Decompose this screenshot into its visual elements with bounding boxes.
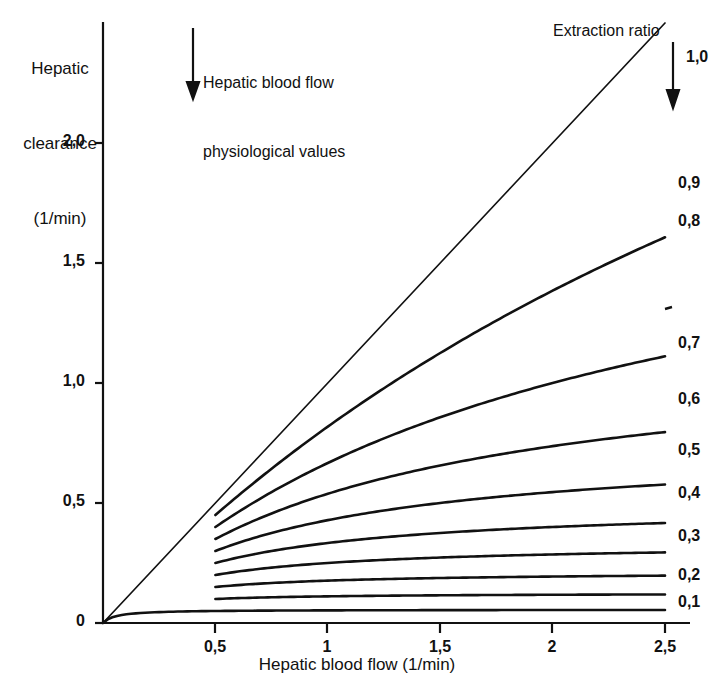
hepatic-blood-flow-annotation-line-1: Hepatic blood flow xyxy=(203,71,345,94)
x-tick-label-2: 2 xyxy=(527,638,577,656)
hepatic-flow-arrow-head xyxy=(187,82,199,99)
hepatic-blood-flow-annotation-line-2: physiological values xyxy=(203,140,345,163)
curve-0-6 xyxy=(215,485,665,551)
hepatic-blood-flow-annotation: Hepatic blood flow physiological values xyxy=(203,25,345,209)
extraction-ratio-curves xyxy=(103,23,665,623)
y-tick-label-2-0: 2,0 xyxy=(33,132,85,150)
curve-0-9 xyxy=(215,237,665,515)
x-tick-label-1: 1 xyxy=(302,638,352,656)
curve-label-0-5: 0,5 xyxy=(678,441,700,459)
x-tick-label-1-5: 1,5 xyxy=(415,638,465,656)
x-tick-label-0-5: 0,5 xyxy=(190,638,240,656)
y-tick-label-0: 0 xyxy=(33,612,85,630)
hepatic-clearance-chart: Hepatic clearance (1/min) Hepatic blood … xyxy=(0,0,714,695)
curve-0-8 xyxy=(215,356,665,527)
y-tick-label-0-5: 0,5 xyxy=(33,492,85,510)
curve-label-0-2: 0,2 xyxy=(678,566,700,584)
y-tick-label-1-0: 1,0 xyxy=(33,372,85,390)
curve-0-3 xyxy=(215,576,665,587)
curve-end-ticks xyxy=(665,307,672,309)
x-axis-title: Hepatic blood flow (1/min) xyxy=(0,655,714,675)
x-tick-label-2-5: 2,5 xyxy=(640,638,690,656)
curve-label-0-9: 0,9 xyxy=(678,174,700,192)
curve-label-1-0: 1,0 xyxy=(686,48,708,66)
curve-1-0 xyxy=(103,23,665,623)
curve-label-0-7: 0,7 xyxy=(678,334,700,352)
curve-label-0-6: 0,6 xyxy=(678,390,700,408)
curve-label-0-4: 0,4 xyxy=(678,484,700,502)
y-axis-title-line-1: Hepatic xyxy=(12,56,108,81)
extraction-ratio-title: Extraction ratio xyxy=(553,22,660,40)
curve-0-2 xyxy=(215,594,665,599)
x-axis-ticks xyxy=(215,623,665,633)
curve-label-0-8: 0,8 xyxy=(678,212,700,230)
extraction-ratio-arrow-head xyxy=(667,90,679,108)
curve-label-0-3: 0,3 xyxy=(678,527,700,545)
curve-label-0-1: 0,1 xyxy=(678,593,700,611)
curve-0-4 xyxy=(215,552,665,575)
end-tick-0-9 xyxy=(665,307,672,309)
axis-lines xyxy=(103,22,690,623)
curve-0-1 xyxy=(103,610,665,623)
y-axis-title-line-3: (1/min) xyxy=(12,206,108,231)
y-tick-label-1-5: 1,5 xyxy=(33,252,85,270)
